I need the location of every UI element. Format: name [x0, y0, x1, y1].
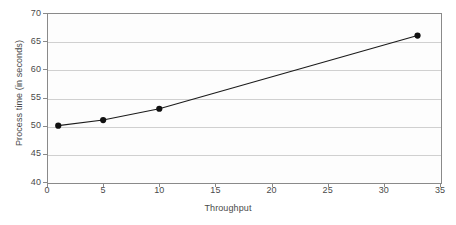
series-line	[58, 36, 417, 126]
data-series-layer	[0, 0, 456, 225]
data-point	[156, 106, 162, 112]
data-point	[100, 117, 106, 123]
data-point	[414, 32, 420, 38]
series-markers	[55, 32, 421, 128]
line-chart: 40455055606570 05101520253035 Process ti…	[0, 0, 456, 225]
data-point	[55, 123, 61, 129]
